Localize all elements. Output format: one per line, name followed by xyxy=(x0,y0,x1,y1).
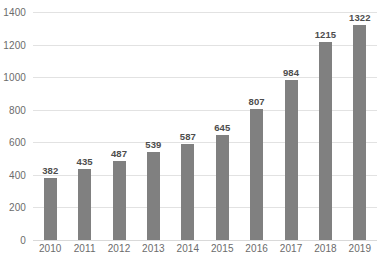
bar[interactable] xyxy=(285,80,298,240)
bar-slot: 487 xyxy=(102,12,136,240)
bar-slot: 587 xyxy=(171,12,205,240)
x-axis-tick-label: 2019 xyxy=(343,243,377,254)
bar-value-label: 382 xyxy=(42,165,58,176)
y-axis-tick-label: 600 xyxy=(0,137,26,148)
x-axis: 2010201120122013201420152016201720182019 xyxy=(33,243,377,254)
bar-value-label: 645 xyxy=(214,122,230,133)
x-axis-tick-label: 2011 xyxy=(67,243,101,254)
bar-value-label: 807 xyxy=(249,96,265,107)
y-axis-tick-label: 200 xyxy=(0,202,26,213)
x-axis-tick-label: 2013 xyxy=(136,243,170,254)
bar[interactable] xyxy=(250,109,263,240)
bar-slot: 807 xyxy=(239,12,273,240)
x-axis-tick-label: 2016 xyxy=(239,243,273,254)
bar-slot: 645 xyxy=(205,12,239,240)
bar-slot: 435 xyxy=(67,12,101,240)
bar[interactable] xyxy=(353,25,366,240)
y-axis-tick-label: 400 xyxy=(0,169,26,180)
bar-chart: 0200400600800100012001400 38243548753958… xyxy=(0,0,381,272)
bar-value-label: 435 xyxy=(77,156,93,167)
bar[interactable] xyxy=(44,178,57,240)
bar-slot: 1322 xyxy=(343,12,377,240)
x-axis-tick-label: 2015 xyxy=(205,243,239,254)
bar[interactable] xyxy=(147,152,160,240)
bar-value-label: 984 xyxy=(283,67,299,78)
bar-value-label: 539 xyxy=(145,139,161,150)
bar[interactable] xyxy=(319,42,332,240)
bar-series: 38243548753958764580798412151322 xyxy=(33,12,377,240)
bar[interactable] xyxy=(181,144,194,240)
bar[interactable] xyxy=(113,161,126,240)
bar[interactable] xyxy=(216,135,229,240)
bar-slot: 539 xyxy=(136,12,170,240)
x-axis-tick-label: 2017 xyxy=(274,243,308,254)
y-axis-tick-label: 1400 xyxy=(0,7,26,18)
gridline xyxy=(33,240,377,241)
bar-value-label: 587 xyxy=(180,131,196,142)
bar-slot: 382 xyxy=(33,12,67,240)
x-axis-tick-label: 2012 xyxy=(102,243,136,254)
bar-value-label: 1215 xyxy=(315,29,337,40)
bar-slot: 1215 xyxy=(308,12,342,240)
x-axis-tick-label: 2014 xyxy=(171,243,205,254)
y-axis-tick-label: 1000 xyxy=(0,72,26,83)
x-axis-tick-label: 2010 xyxy=(33,243,67,254)
x-axis-tick-label: 2018 xyxy=(308,243,342,254)
bar-slot: 984 xyxy=(274,12,308,240)
y-axis-tick-label: 0 xyxy=(0,235,26,246)
bar-value-label: 487 xyxy=(111,148,127,159)
y-axis-tick-label: 1200 xyxy=(0,39,26,50)
bar[interactable] xyxy=(78,169,91,240)
bar-value-label: 1322 xyxy=(349,12,371,23)
y-axis-tick-label: 800 xyxy=(0,104,26,115)
